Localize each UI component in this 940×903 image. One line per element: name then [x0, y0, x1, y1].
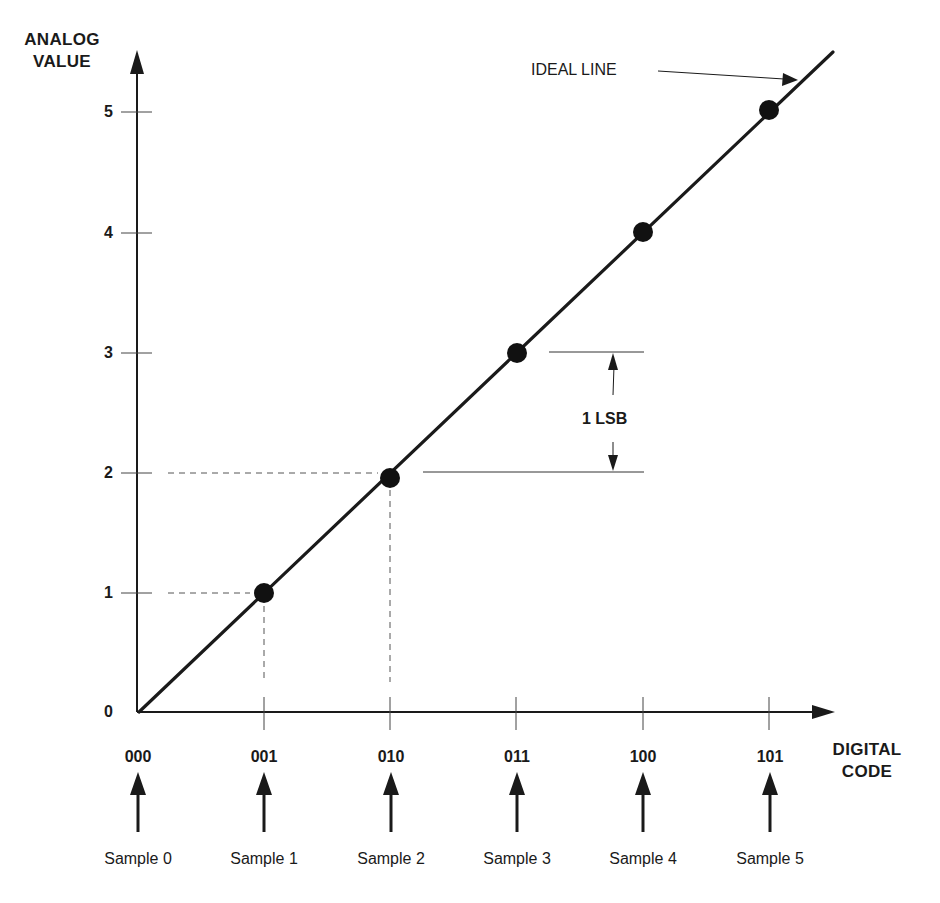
y-axis-arrow-icon — [130, 50, 144, 74]
sample-arrows — [130, 772, 778, 832]
lsb-up-arrow-icon — [608, 353, 618, 370]
ideal-line-pointer — [658, 71, 798, 86]
y-tick-label-0: 0 — [93, 703, 113, 721]
sample-label-3: Sample 3 — [462, 850, 572, 868]
y-tick-label-3: 3 — [93, 344, 113, 362]
y-axis-title-line-1: ANALOG — [24, 29, 100, 51]
x-axis-title-line-1: DIGITAL — [822, 739, 912, 761]
code-label-0: 000 — [108, 748, 168, 766]
code-label-5: 101 — [740, 748, 800, 766]
x-axis-title: DIGITAL CODE — [822, 739, 912, 783]
lsb-down-arrow-icon — [608, 455, 618, 471]
y-axis-title: ANALOG VALUE — [24, 29, 100, 73]
sample-label-5: Sample 5 — [715, 850, 825, 868]
sample-label-2: Sample 2 — [336, 850, 446, 868]
sample-arrow-4 — [635, 772, 651, 832]
y-tick-label-1: 1 — [93, 584, 113, 602]
code-label-3: 011 — [487, 748, 547, 766]
adc-transfer-diagram — [0, 0, 940, 903]
pointer-arrow-icon — [782, 73, 798, 86]
sample-arrow-3 — [509, 772, 525, 832]
ideal-line — [139, 52, 833, 712]
y-axis — [121, 50, 152, 712]
sample-point-2 — [380, 468, 400, 488]
sample-arrow-5 — [762, 772, 778, 832]
y-tick-label-4: 4 — [93, 224, 113, 242]
sample-label-0: Sample 0 — [83, 850, 193, 868]
ideal-line-label: IDEAL LINE — [531, 61, 617, 79]
sample-label-1: Sample 1 — [209, 850, 319, 868]
x-axis-arrow-icon — [812, 705, 835, 719]
sample-point-1 — [254, 583, 274, 603]
sample-point-5 — [759, 100, 779, 120]
sample-arrow-1 — [256, 772, 272, 832]
sample-point-4 — [633, 222, 653, 242]
code-label-1: 001 — [234, 748, 294, 766]
code-label-4: 100 — [613, 748, 673, 766]
sample-arrow-2 — [383, 772, 399, 832]
sample-point-3 — [507, 343, 527, 363]
lsb-label: 1 LSB — [582, 410, 627, 428]
code-label-2: 010 — [361, 748, 421, 766]
y-tick-label-5: 5 — [93, 103, 113, 121]
sample-arrow-0 — [130, 772, 146, 832]
y-axis-title-line-2: VALUE — [24, 51, 100, 73]
y-tick-label-2: 2 — [93, 464, 113, 482]
x-axis-title-line-2: CODE — [822, 761, 912, 783]
x-axis — [137, 697, 835, 730]
sample-label-4: Sample 4 — [588, 850, 698, 868]
